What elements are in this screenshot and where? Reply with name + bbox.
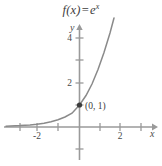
y-axis-label: y [70,22,74,33]
x-axis-label: x [150,128,154,139]
plot-area [0,0,162,166]
exponential-function-figure: f(x)=ex [0,0,162,166]
x-tick-label-negative-2: -2 [30,131,44,141]
point-annotation-label: (0, 1) [85,101,106,111]
x-tick-label-2: 2 [113,131,127,141]
y-axis [76,24,82,160]
point-marker-0-1 [77,102,82,107]
y-tick-label-4: 4 [62,33,72,43]
y-tick-label-2: 2 [62,78,72,88]
